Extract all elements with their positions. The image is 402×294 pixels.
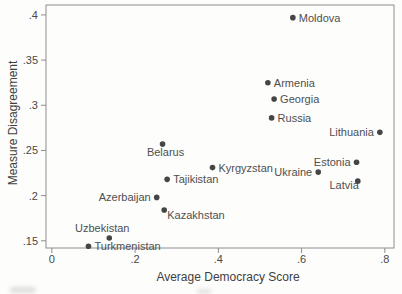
- data-point-azerbaijan[interactable]: [154, 195, 160, 201]
- data-point-georgia[interactable]: [271, 96, 277, 102]
- point-label-estonia: Estonia: [314, 156, 352, 168]
- point-label-russia: Russia: [278, 112, 313, 124]
- point-label-georgia: Georgia: [280, 93, 320, 105]
- data-point-kazakhstan[interactable]: [161, 207, 167, 213]
- point-label-ukraine: Ukraine: [274, 166, 312, 178]
- data-point-turkmenistan[interactable]: [86, 243, 92, 249]
- data-point-russia[interactable]: [269, 115, 275, 121]
- x-tick-label: .2: [130, 253, 139, 265]
- x-tick-label: 0: [49, 253, 55, 265]
- y-tick-label: .25: [23, 144, 38, 156]
- y-tick-label: .2: [29, 190, 38, 202]
- x-axis-title: Average Democracy Score: [156, 270, 300, 284]
- y-tick-label: .4: [29, 9, 38, 21]
- point-label-armenia: Armenia: [274, 77, 316, 89]
- point-label-kyrgyzstan: Kyrgyzstan: [219, 162, 273, 174]
- point-label-latvia: Latvia: [329, 179, 359, 191]
- point-label-azerbaijan: Azerbaijan: [99, 191, 151, 203]
- data-point-armenia[interactable]: [265, 80, 271, 86]
- point-label-turkmenistan: Turkmenistan: [94, 240, 160, 252]
- x-tick-label: .4: [214, 253, 223, 265]
- y-tick-label: .35: [23, 54, 38, 66]
- point-label-belarus: Belarus: [147, 146, 185, 158]
- data-point-layer: MoldovaArmeniaGeorgiaRussiaLithuaniaBela…: [75, 12, 383, 253]
- point-label-moldova: Moldova: [299, 12, 341, 24]
- point-label-lithuania: Lithuania: [329, 126, 375, 138]
- y-tick-label: .3: [29, 99, 38, 111]
- point-label-kazakhstan: Kazakhstan: [167, 209, 224, 221]
- data-point-moldova[interactable]: [290, 15, 296, 21]
- scatter-plot: 0.2.4.6.8.15.2.25.3.35.4 MoldovaArmeniaG…: [0, 0, 402, 294]
- scan-artifact: [197, 289, 211, 294]
- data-point-ukraine[interactable]: [315, 169, 321, 175]
- y-tick-label: .15: [23, 235, 38, 247]
- scan-artifact: [10, 287, 36, 293]
- y-axis-title: Measure Disagreement: [6, 60, 20, 185]
- point-label-tajikistan: Tajikistan: [173, 173, 218, 185]
- scatter-figure: 0.2.4.6.8.15.2.25.3.35.4 MoldovaArmeniaG…: [0, 0, 402, 294]
- x-tick-label: .8: [380, 253, 389, 265]
- x-tick-label: .6: [297, 253, 306, 265]
- data-point-estonia[interactable]: [354, 159, 360, 165]
- data-point-kyrgyzstan[interactable]: [210, 165, 216, 171]
- point-label-uzbekistan: Uzbekistan: [75, 222, 129, 234]
- data-point-lithuania[interactable]: [377, 130, 383, 136]
- data-point-tajikistan[interactable]: [164, 177, 170, 183]
